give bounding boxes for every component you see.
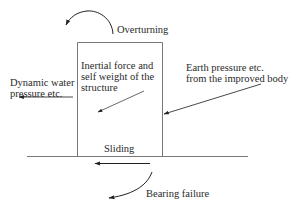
earth-pressure-arrow-icon [164, 84, 261, 114]
sliding-label: Sliding [104, 143, 134, 154]
inertial-force-label-line1: Inertial force and [81, 60, 153, 71]
earth-pressure-label-line1: Earth pressure etc. [186, 62, 264, 73]
dynamic-water-label-line2: pressure etc. [10, 88, 62, 99]
bearing-failure-label: Bearing failure [146, 188, 209, 199]
inertial-force-arrow-icon [98, 91, 144, 112]
inertial-force-label-line3: structure [81, 82, 118, 93]
overturning-label: Overturning [117, 24, 168, 35]
dynamic-water-label-line1: Dynamic water [10, 77, 74, 88]
overturning-arrow-icon [66, 11, 113, 34]
earth-pressure-label-line2: from the improved body [186, 73, 288, 84]
inertial-force-label-line2: self weight of the [81, 71, 154, 82]
